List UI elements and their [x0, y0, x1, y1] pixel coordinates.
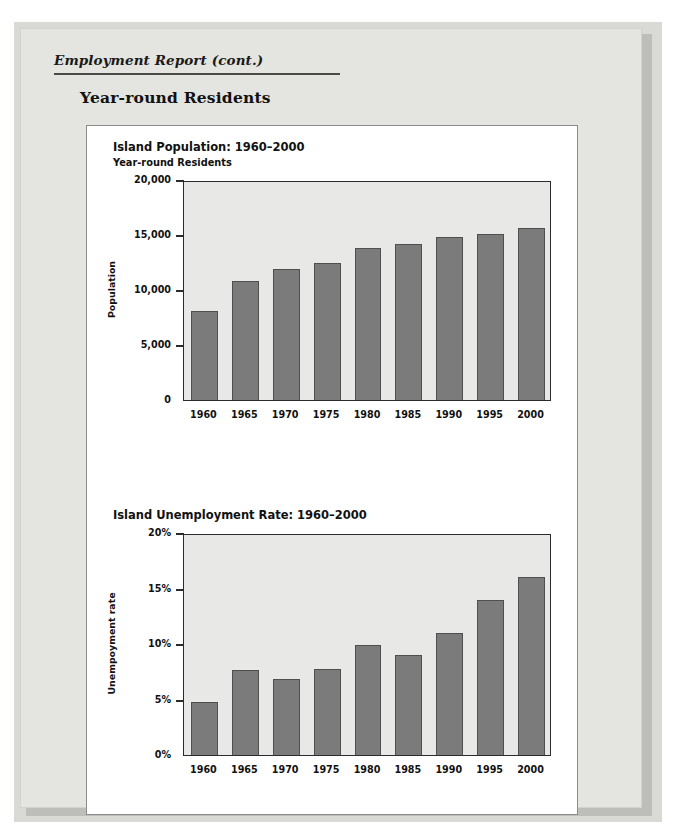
population-y-tick-mark — [176, 345, 184, 347]
population-y-tick-mark — [176, 290, 184, 292]
unemployment-x-tick-label: 1975 — [306, 764, 347, 775]
unemployment-bar — [355, 645, 382, 756]
unemployment-x-tick-label: 1995 — [469, 764, 510, 775]
unemployment-x-tick-label: 1990 — [428, 764, 469, 775]
unemployment-y-tick-label: 10% — [113, 638, 171, 649]
population-plot-area — [183, 181, 551, 401]
unemployment-bar — [232, 670, 259, 756]
unemployment-x-tick-label: 1985 — [387, 764, 428, 775]
chart-unemployment-plot: Unempoyment rate 0%5%10%15%20%1960196519… — [87, 498, 579, 808]
unemployment-plot-area — [183, 534, 551, 756]
population-x-tick-label: 1995 — [469, 409, 510, 420]
unemployment-bar — [314, 669, 341, 756]
population-bar — [355, 248, 382, 401]
population-y-tick-mark — [176, 235, 184, 237]
paper-sheet: Employment Report (cont.) Year-round Res… — [20, 28, 642, 808]
unemployment-bar — [518, 577, 545, 756]
unemployment-y-tick-mark — [176, 533, 184, 535]
population-y-tick-label: 15,000 — [113, 229, 171, 240]
unemployment-y-tick-label: 15% — [113, 583, 171, 594]
population-y-tick-label: 0 — [113, 394, 171, 405]
unemployment-x-tick-label: 2000 — [510, 764, 551, 775]
page-title: Year-round Residents — [80, 88, 271, 107]
unemployment-bar — [477, 600, 504, 756]
unemployment-bar — [436, 633, 463, 756]
population-x-tick-label: 1980 — [347, 409, 388, 420]
unemployment-bar — [395, 655, 422, 756]
document-page: Employment Report (cont.) Year-round Res… — [0, 0, 678, 840]
population-bar — [191, 311, 218, 401]
population-bar — [232, 281, 259, 401]
unemployment-y-tick-label: 20% — [113, 527, 171, 538]
population-bar — [518, 228, 545, 401]
population-x-tick-label: 1960 — [183, 409, 224, 420]
running-head: Employment Report (cont.) — [54, 52, 354, 72]
population-x-tick-label: 1965 — [224, 409, 265, 420]
unemployment-x-tick-label: 1965 — [224, 764, 265, 775]
unemployment-y-tick-mark — [176, 589, 184, 591]
unemployment-bar — [191, 702, 218, 757]
chart-unemployment: Island Unemployment Rate: 1960–2000 Unem… — [87, 498, 579, 808]
figure-frame: Island Population: 1960–2000 Year-round … — [86, 125, 578, 815]
unemployment-y-tick-mark — [176, 700, 184, 702]
unemployment-x-tick-label: 1970 — [265, 764, 306, 775]
population-x-tick-label: 1970 — [265, 409, 306, 420]
unemployment-y-tick-label: 5% — [113, 694, 171, 705]
population-y-tick-mark — [176, 180, 184, 182]
population-x-tick-label: 2000 — [510, 409, 551, 420]
unemployment-x-tick-label: 1980 — [347, 764, 388, 775]
population-bar — [436, 237, 463, 401]
population-bar — [314, 263, 341, 401]
unemployment-y-tick-label: 0% — [113, 749, 171, 760]
chart-population-plot: Population 05,00010,00015,00020,00019601… — [87, 126, 579, 476]
population-y-tick-label: 5,000 — [113, 339, 171, 350]
population-bar — [395, 244, 422, 401]
population-x-tick-label: 1990 — [428, 409, 469, 420]
population-y-tick-label: 10,000 — [113, 284, 171, 295]
unemployment-y-tick-mark — [176, 644, 184, 646]
unemployment-bar — [273, 679, 300, 756]
chart-population: Island Population: 1960–2000 Year-round … — [87, 126, 579, 476]
population-bar — [477, 234, 504, 401]
population-x-tick-label: 1985 — [387, 409, 428, 420]
unemployment-x-tick-label: 1960 — [183, 764, 224, 775]
population-x-tick-label: 1975 — [306, 409, 347, 420]
running-head-rule — [54, 73, 340, 75]
population-bar — [273, 269, 300, 401]
population-y-tick-label: 20,000 — [113, 174, 171, 185]
